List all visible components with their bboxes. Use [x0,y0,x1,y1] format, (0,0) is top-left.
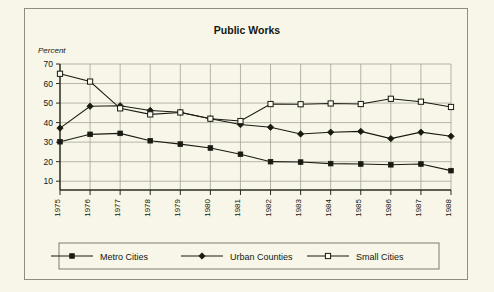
y-tick-label: 20 [44,157,54,167]
y-axis-tick-labels: 10203040506070 [44,59,60,186]
data-point-marker-filled-square [358,162,363,167]
data-point-marker-open-square [298,102,303,107]
legend-label: Metro Cities [100,252,149,262]
data-point-marker-filled-square [118,131,123,136]
data-point-marker-filled-square [70,254,75,259]
data-point-marker-filled-square [268,159,273,164]
axis-layer [60,64,451,190]
data-series-layer [57,71,454,173]
x-tick-label: 1988 [444,198,453,216]
y-tick-label: 50 [44,98,54,108]
data-point-marker-filled-square [208,146,213,151]
data-point-marker-filled-diamond [267,124,273,130]
data-point-marker-open-square [57,71,62,76]
x-tick-label: 1982 [264,198,273,216]
data-point-marker-open-square [87,79,92,84]
x-tick-label: 1983 [294,198,303,216]
data-point-marker-filled-diamond [297,131,303,137]
x-tick-label: 1985 [354,198,363,216]
legend-label: Small Cities [356,252,404,262]
y-tick-label: 10 [44,176,54,186]
data-point-marker-filled-square [88,132,93,137]
x-tick-label: 1979 [173,198,182,216]
data-point-marker-filled-diamond [327,129,333,135]
x-tick-label: 1986 [384,198,393,216]
data-point-marker-open-square [118,106,123,111]
data-point-marker-filled-square [298,160,303,165]
legend-label: Urban Counties [230,252,293,262]
x-tick-label: 1976 [83,198,92,216]
grid-layer [60,64,451,190]
x-tick-label: 1975 [53,198,62,216]
data-point-marker-filled-square [449,168,454,173]
data-point-marker-filled-square [328,161,333,166]
data-point-marker-open-square [388,96,393,101]
chart-legend: Metro CitiesUrban CountiesSmall Cities [51,243,439,269]
data-point-marker-open-square [418,99,423,104]
x-tick-label: 1987 [414,198,423,216]
series-urban-counties [57,103,454,142]
data-point-marker-filled-square [178,142,183,147]
data-point-marker-filled-diamond [448,133,454,139]
data-point-marker-open-square [148,112,153,117]
y-axis-title: Percent [38,46,66,55]
x-tick-label: 1981 [233,198,242,216]
x-axis-tick-labels: 1975197619771978197919801981198219831984… [53,190,453,217]
data-point-marker-filled-square [389,163,394,168]
data-point-marker-open-square [328,101,333,106]
data-point-marker-filled-square [148,138,153,143]
data-point-marker-open-square [448,104,453,109]
data-point-marker-open-square [325,253,330,258]
y-tick-label: 30 [44,137,54,147]
y-tick-label: 70 [44,59,54,69]
data-point-marker-filled-square [419,162,424,167]
public-works-line-chart: 10203040506070 1975197619771978197919801… [0,0,494,292]
series-small-cities [57,71,453,123]
y-tick-label: 40 [44,118,54,128]
data-point-marker-filled-diamond [358,128,364,134]
data-point-marker-open-square [178,110,183,115]
data-point-marker-open-square [238,118,243,123]
x-tick-label: 1977 [113,198,122,216]
chart-figure: 10203040506070 1975197619771978197919801… [0,0,494,292]
data-point-marker-filled-square [238,152,243,157]
data-point-marker-filled-diamond [418,129,424,135]
data-point-marker-filled-square [58,139,63,144]
x-tick-label: 1980 [203,198,212,216]
series-metro-cities [58,131,454,173]
data-point-marker-open-square [358,101,363,106]
data-point-marker-open-square [208,116,213,121]
data-point-marker-filled-diamond [388,135,394,141]
data-point-marker-open-square [268,101,273,106]
x-tick-label: 1984 [324,198,333,216]
chart-title: Public Works [214,24,280,36]
y-tick-label: 60 [44,79,54,89]
x-tick-label: 1978 [143,198,152,216]
